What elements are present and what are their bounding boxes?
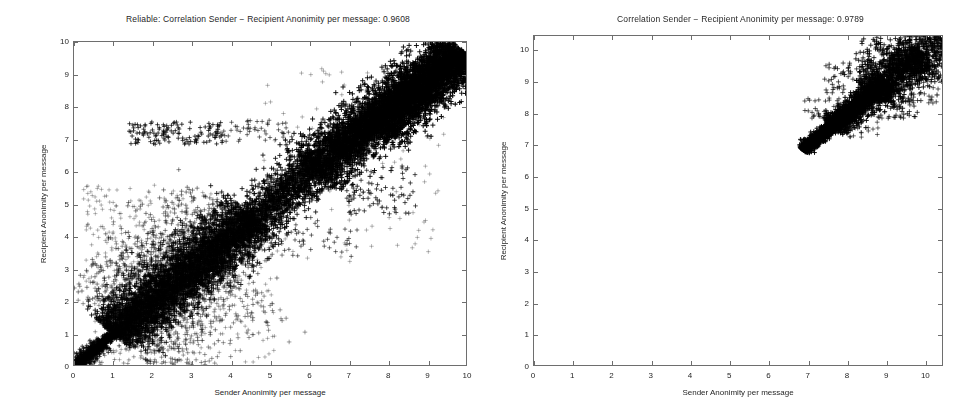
y-tick-label: 2: [511, 298, 529, 307]
y-tick-label: 8: [51, 102, 69, 111]
x-tick-mark-top: [534, 36, 535, 40]
y-tick-label: 4: [511, 235, 529, 244]
x-tick-mark-top: [429, 42, 430, 46]
y-tick-mark-right: [938, 335, 942, 336]
plot-title-left: Reliable: Correlation Sender − Recipient…: [0, 14, 518, 24]
y-tick-mark: [534, 240, 538, 241]
x-tick-label: 0: [531, 371, 535, 380]
y-tick-mark: [74, 140, 78, 141]
y-tick-mark-right: [938, 240, 942, 241]
y-tick-mark: [534, 272, 538, 273]
y-tick-mark: [534, 145, 538, 146]
y-tick-mark-right: [462, 107, 466, 108]
y-tick-mark: [74, 205, 78, 206]
x-tick-mark: [691, 361, 692, 365]
x-tick-mark-top: [310, 42, 311, 46]
x-tick-label: 3: [648, 371, 652, 380]
y-tick-mark: [534, 304, 538, 305]
x-tick-label: 8: [386, 371, 390, 380]
x-tick-mark: [809, 361, 810, 365]
x-tick-label: 5: [268, 371, 272, 380]
y-tick-mark: [74, 270, 78, 271]
x-tick-mark-top: [730, 36, 731, 40]
x-tick-mark: [310, 361, 311, 365]
x-tick-mark-top: [809, 36, 810, 40]
x-tick-label: 2: [609, 371, 613, 380]
x-tick-mark-top: [232, 42, 233, 46]
y-tick-label: 4: [51, 232, 69, 241]
y-tick-mark: [74, 42, 78, 43]
x-tick-mark: [573, 361, 574, 365]
y-tick-label: 2: [51, 297, 69, 306]
x-tick-mark: [612, 361, 613, 365]
x-tick-label: 6: [307, 371, 311, 380]
x-tick-label: 2: [150, 371, 154, 380]
y-axis-label-left: Recipient Anonimity per message: [39, 144, 48, 263]
y-tick-mark-right: [462, 172, 466, 173]
y-tick-mark-right: [462, 302, 466, 303]
x-tick-mark: [730, 361, 731, 365]
x-tick-mark: [232, 361, 233, 365]
y-tick-label: 10: [511, 45, 529, 54]
x-tick-mark: [271, 361, 272, 365]
y-tick-label: 0: [511, 362, 529, 371]
x-tick-mark: [113, 361, 114, 365]
x-tick-mark-top: [271, 42, 272, 46]
x-tick-mark-top: [652, 36, 653, 40]
x-tick-mark: [74, 361, 75, 365]
x-tick-mark-top: [153, 42, 154, 46]
x-tick-label: 9: [884, 371, 888, 380]
x-tick-label: 8: [845, 371, 849, 380]
y-tick-mark: [74, 237, 78, 238]
x-tick-mark: [153, 361, 154, 365]
x-tick-mark-top: [192, 42, 193, 46]
x-tick-mark-top: [926, 36, 927, 40]
y-tick-mark: [534, 209, 538, 210]
y-tick-mark: [74, 302, 78, 303]
x-tick-mark: [652, 361, 653, 365]
x-axis-label-right: Sender Anonimity per message: [682, 388, 793, 397]
y-tick-label: 3: [51, 264, 69, 273]
y-tick-label: 8: [511, 108, 529, 117]
y-axis-label-right: Recipient Anonimity per message: [499, 141, 508, 260]
x-tick-mark: [848, 361, 849, 365]
scatter-points-left: [74, 42, 467, 366]
x-tick-label: 4: [228, 371, 232, 380]
y-tick-mark-right: [938, 82, 942, 83]
x-tick-mark: [534, 361, 535, 365]
scatter-panel-right: Correlation Sender − Recipient Anonimity…: [490, 0, 967, 410]
y-tick-mark: [74, 172, 78, 173]
x-tick-mark-top: [612, 36, 613, 40]
x-tick-mark-top: [887, 36, 888, 40]
y-tick-mark-right: [938, 145, 942, 146]
scatter-points-right: [534, 36, 943, 366]
y-tick-mark-right: [462, 205, 466, 206]
y-tick-label: 10: [51, 37, 69, 46]
x-tick-label: 5: [727, 371, 731, 380]
x-tick-mark-top: [691, 36, 692, 40]
x-tick-mark-top: [389, 42, 390, 46]
y-tick-mark-right: [462, 270, 466, 271]
y-tick-mark: [534, 82, 538, 83]
plot-axes-left: [73, 41, 467, 366]
y-tick-mark: [534, 50, 538, 51]
x-tick-label: 10: [921, 371, 930, 380]
x-tick-label: 1: [570, 371, 574, 380]
x-tick-label: 7: [347, 371, 351, 380]
x-tick-mark: [192, 361, 193, 365]
y-tick-label: 0: [51, 362, 69, 371]
y-tick-mark-right: [938, 272, 942, 273]
plot-title-right: Correlation Sender − Recipient Anonimity…: [490, 14, 967, 24]
x-tick-mark-top: [769, 36, 770, 40]
plot-axes-right: [533, 35, 943, 366]
y-tick-label: 3: [511, 266, 529, 275]
y-tick-label: 7: [511, 140, 529, 149]
x-tick-mark: [429, 361, 430, 365]
y-tick-label: 9: [51, 69, 69, 78]
y-tick-mark: [534, 177, 538, 178]
x-axis-label-left: Sender Anonimity per message: [214, 388, 325, 397]
x-tick-label: 0: [71, 371, 75, 380]
y-tick-mark-right: [938, 114, 942, 115]
y-tick-label: 1: [511, 330, 529, 339]
x-tick-label: 6: [766, 371, 770, 380]
